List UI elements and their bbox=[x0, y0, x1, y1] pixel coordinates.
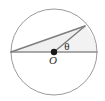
angle-theta-label: θ bbox=[64, 40, 69, 52]
geometry-figure: θ O bbox=[0, 0, 105, 101]
circle-diagram-svg: θ O bbox=[0, 0, 105, 101]
center-point-label: O bbox=[49, 54, 57, 66]
